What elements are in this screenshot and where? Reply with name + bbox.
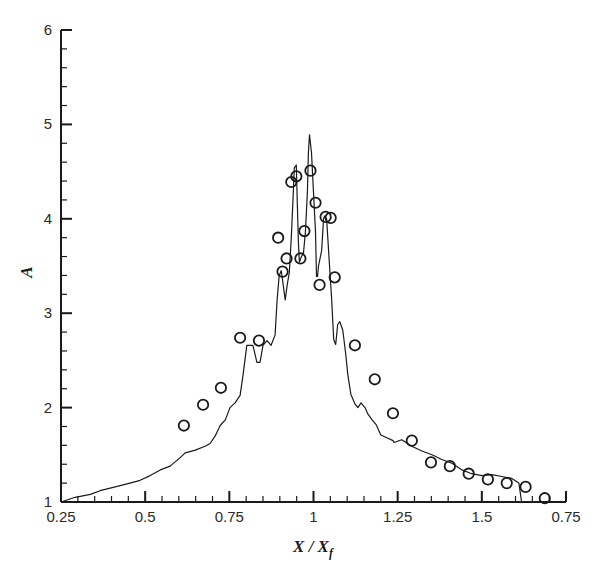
experiment-data-point	[350, 340, 360, 350]
y-tick-label: 4	[44, 210, 52, 227]
experiment-data-point	[198, 400, 208, 410]
experiment-data-point	[179, 420, 189, 430]
experiment-data-point	[254, 335, 264, 345]
x-tick-label: 0.75	[551, 508, 580, 525]
x-tick-label: 0.25	[46, 508, 75, 525]
experiment-data-point	[502, 478, 512, 488]
experiment-data-point	[299, 226, 309, 236]
experiment-data-point	[520, 482, 530, 492]
y-tick-label: 2	[44, 399, 52, 416]
experiment-data-point	[483, 474, 493, 484]
experiment-data-point	[426, 457, 436, 467]
x-axis-ticks	[61, 491, 566, 502]
experiment-data-point	[388, 408, 398, 418]
simulation-line-series	[61, 135, 522, 502]
simulation-line	[61, 135, 522, 502]
x-tick-label: 1.5	[471, 508, 492, 525]
experiment-data-point	[216, 383, 226, 393]
x-axis-title-main: X / X	[292, 537, 330, 556]
x-axis-title-subscript: f	[329, 546, 334, 560]
experiment-data-point	[330, 272, 340, 282]
y-tick-label: 5	[44, 115, 52, 132]
x-tick-label: 0.5	[135, 508, 156, 525]
x-tick-label: 1	[309, 508, 317, 525]
experiment-data-point	[407, 435, 417, 445]
x-tick-labels: 0.250.50.7511.251.50.75	[46, 508, 580, 525]
experiment-data-point	[305, 165, 315, 175]
x-tick-label: 1.25	[383, 508, 412, 525]
y-tick-label: 6	[44, 21, 52, 38]
x-tick-label: 0.75	[215, 508, 244, 525]
y-tick-labels: 123456	[44, 21, 52, 510]
experiment-data-point	[310, 198, 320, 208]
y-tick-label: 3	[44, 304, 52, 321]
experiment-data-point	[277, 266, 287, 276]
experiment-data-point	[314, 280, 324, 290]
experiment-marker-series	[179, 165, 550, 503]
experiment-data-point	[273, 232, 283, 242]
chart: 123456 0.250.50.7511.251.50.75 X / Xf A	[0, 0, 600, 582]
experiment-data-point	[370, 374, 380, 384]
y-axis-title: A	[17, 266, 36, 278]
y-axis-ticks	[61, 30, 72, 502]
experiment-data-point	[235, 333, 245, 343]
x-axis-title: X / Xf	[292, 537, 334, 560]
